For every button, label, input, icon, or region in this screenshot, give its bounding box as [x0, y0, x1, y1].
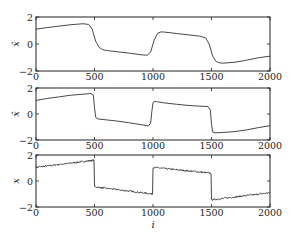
x-tick-label: 0	[33, 140, 39, 151]
x-tick-label: 1500	[199, 71, 223, 82]
subplot-1: 0500100015002000−202x̂	[10, 12, 282, 83]
y-axis-label: x̂	[10, 111, 21, 117]
data-line	[36, 160, 270, 201]
y-tick-label: 2	[27, 12, 33, 23]
y-tick-label: 0	[27, 109, 33, 120]
y-axis-label: x̂	[10, 41, 21, 47]
axes-frame	[36, 88, 270, 140]
x-tick-label: 1000	[141, 71, 165, 82]
x-tick-label: 2000	[258, 207, 282, 218]
y-tick-label: −2	[19, 135, 33, 146]
x-tick-label: 500	[85, 71, 103, 82]
data-line	[36, 93, 270, 132]
y-tick-label: 0	[27, 176, 33, 187]
x-tick-label: 0	[33, 71, 39, 82]
y-axis-label: x	[10, 178, 21, 184]
data-line	[36, 24, 270, 63]
subplot-2: 0500100015002000−202x̂	[10, 83, 282, 152]
x-tick-label: 1500	[199, 207, 223, 218]
y-tick-label: 0	[27, 39, 33, 50]
figure: 0500100015002000−202x̂0500100015002000−2…	[0, 0, 295, 239]
y-tick-label: 2	[27, 83, 33, 94]
x-tick-label: 2000	[258, 140, 282, 151]
x-axis-label: i	[151, 219, 154, 230]
x-tick-label: 2000	[258, 71, 282, 82]
x-tick-label: 1000	[141, 207, 165, 218]
x-tick-label: 500	[85, 140, 103, 151]
y-tick-label: 2	[27, 150, 33, 161]
x-tick-label: 1000	[141, 140, 165, 151]
x-tick-label: 0	[33, 207, 39, 218]
subplot-3: 0500100015002000−202x	[10, 150, 282, 219]
x-tick-label: 500	[85, 207, 103, 218]
y-tick-label: −2	[19, 202, 33, 213]
y-tick-label: −2	[19, 66, 33, 77]
x-tick-label: 1500	[199, 140, 223, 151]
